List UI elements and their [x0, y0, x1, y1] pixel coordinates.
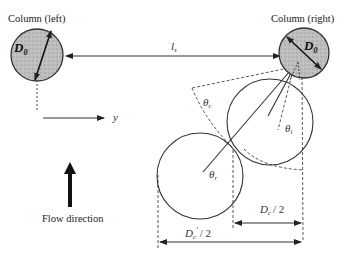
flow-direction-label: Flow direction — [42, 213, 104, 224]
y-axis: y — [43, 111, 118, 123]
left-column-label: Column (left) — [8, 13, 66, 25]
left-column: Column (left) D0 — [8, 13, 66, 110]
spacing-label: ls — [171, 40, 177, 54]
radial-lines — [203, 64, 296, 172]
lower-left-circle — [157, 133, 243, 219]
schematic-diagram: Column (left) D0 ls y Flow direction — [0, 0, 345, 260]
lower-dashed-arc — [244, 149, 304, 170]
bubbles — [157, 79, 313, 219]
tangent-dashed-line — [192, 66, 298, 88]
dimension-arrows: Dc/ 2 Dc'/ 2 — [160, 203, 301, 242]
theta-r-line — [203, 64, 296, 172]
dc-prime-half-label: Dc'/ 2 — [184, 226, 211, 241]
spacing-dimension: ls — [66, 40, 280, 56]
flow-arrow-head — [64, 162, 76, 174]
y-axis-label: y — [112, 111, 118, 123]
theta-r-label: θr — [209, 168, 217, 182]
right-column-label: Column (right) — [271, 13, 335, 25]
angle-labels: θc θi θr — [203, 96, 292, 182]
dc-half-label: Dc/ 2 — [259, 203, 284, 217]
upper-right-circle — [227, 79, 313, 165]
theta-c-arc — [192, 88, 232, 147]
theta-c-label: θc — [203, 96, 212, 110]
flow-direction: Flow direction — [42, 162, 104, 224]
theta-i-label: θi — [285, 122, 292, 136]
